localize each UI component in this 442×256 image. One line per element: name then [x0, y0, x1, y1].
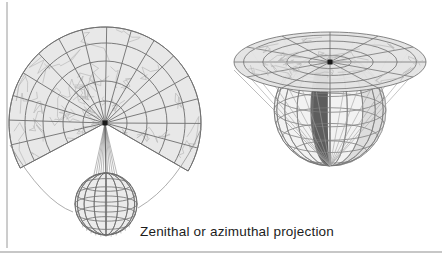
projection-figure — [0, 0, 442, 256]
figure-page: Zenithal or azimuthal projection — [0, 0, 442, 256]
projection-apex-point — [103, 121, 108, 126]
figure-caption: Zenithal or azimuthal projection — [140, 224, 334, 239]
wireframe-globe-left — [75, 173, 137, 235]
tangent-point-marker — [328, 60, 333, 65]
